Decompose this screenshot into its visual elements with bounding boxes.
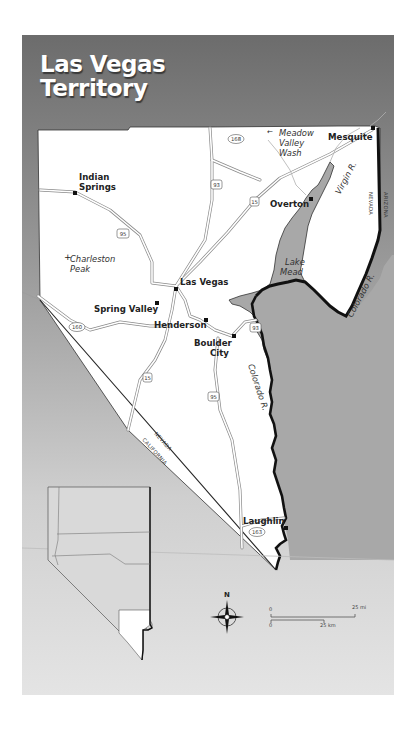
label-laughlin: Laughlin [243, 516, 285, 526]
svg-text:15: 15 [251, 199, 258, 205]
title-line-2: Territory [40, 76, 165, 100]
shield-i15-south: 15 [143, 373, 152, 382]
label-spring-valley: Spring Valley [94, 304, 158, 314]
svg-text:25 mi: 25 mi [352, 604, 366, 610]
marker-las-vegas [174, 287, 178, 291]
label-overton: Overton [270, 199, 309, 209]
marker-indian-springs [73, 191, 77, 195]
shield-us95-south: 95 [208, 392, 219, 401]
marker-overton [309, 197, 313, 201]
compass-north-label: N [224, 591, 230, 599]
marker-boulder-city [232, 334, 236, 338]
label-henderson: Henderson [154, 320, 207, 330]
label-mesquite: Mesquite [328, 132, 373, 142]
map-frame: 95 93 168 15 160 93 15 95 163 IndianSpri… [22, 35, 394, 695]
peak-cross-icon: + [64, 252, 72, 262]
title-line-1: Las Vegas [40, 52, 165, 76]
map-title: Las Vegas Territory [40, 52, 165, 100]
shield-nv168: 168 [228, 135, 244, 144]
label-arizona: ARIZONA [383, 192, 389, 218]
shield-nv160: 160 [69, 323, 85, 332]
shield-us93-south: 93 [250, 323, 261, 332]
svg-text:15: 15 [144, 375, 151, 381]
marker-mesquite [371, 126, 375, 130]
shield-i15-north: 15 [250, 197, 259, 206]
shield-nv163: 163 [249, 528, 265, 537]
svg-text:95: 95 [210, 394, 217, 400]
shield-us93-north: 93 [211, 180, 222, 189]
svg-text:25 km: 25 km [320, 622, 336, 628]
wash-arrow-icon: ← [267, 128, 273, 136]
map-canvas: 95 93 168 15 160 93 15 95 163 IndianSpri… [22, 35, 394, 695]
label-las-vegas: Las Vegas [180, 277, 228, 287]
svg-text:168: 168 [231, 136, 242, 142]
svg-text:93: 93 [252, 325, 259, 331]
svg-text:0: 0 [269, 622, 272, 628]
svg-text:0: 0 [269, 606, 272, 612]
label-nevada-east: NEVADA [368, 192, 374, 215]
shield-us95-north: 95 [117, 229, 129, 238]
svg-text:163: 163 [252, 529, 262, 535]
marker-laughlin [284, 526, 288, 530]
svg-text:93: 93 [213, 182, 220, 188]
svg-text:160: 160 [72, 324, 83, 330]
svg-text:95: 95 [120, 231, 127, 237]
